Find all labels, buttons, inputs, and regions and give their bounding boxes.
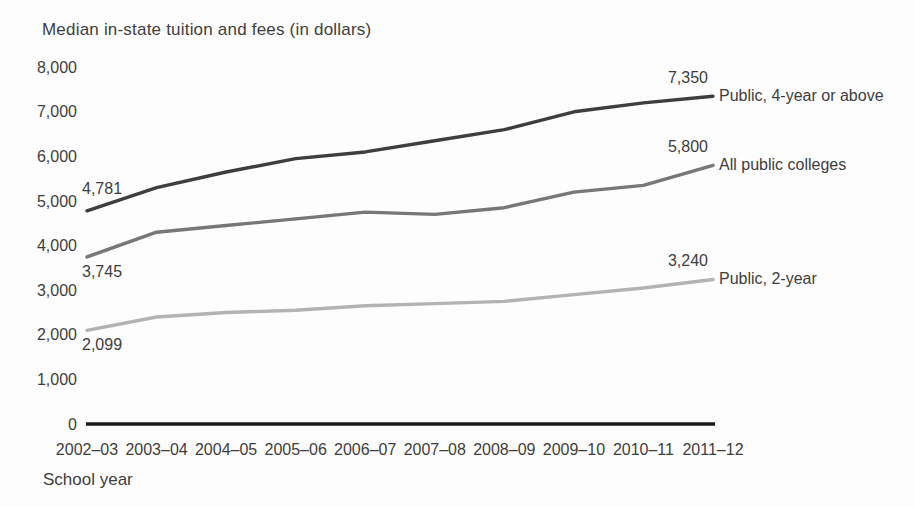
series-name-label: All public colleges <box>719 156 846 173</box>
x-tick-label: 2009–10 <box>543 441 605 458</box>
series-end-value-label: 3,240 <box>668 252 708 269</box>
tuition-line-chart: 01,0002,0003,0004,0005,0006,0007,0008,00… <box>0 0 914 507</box>
series-line-1 <box>87 165 713 257</box>
x-tick-label: 2008–09 <box>473 441 535 458</box>
series-start-value-label: 3,745 <box>82 263 122 280</box>
series-name-label: Public, 4-year or above <box>719 87 884 104</box>
x-axis-title: School year <box>43 470 133 490</box>
y-tick-label: 6,000 <box>37 148 77 165</box>
x-tick-label: 2003–04 <box>125 441 187 458</box>
chart-page: Median in-state tuition and fees (in dol… <box>0 0 914 507</box>
x-tick-label: 2005–06 <box>265 441 327 458</box>
series-name-label: Public, 2-year <box>719 270 817 287</box>
series-end-value-label: 5,800 <box>668 138 708 155</box>
x-tick-label: 2004–05 <box>195 441 257 458</box>
y-tick-label: 1,000 <box>37 371 77 388</box>
x-tick-label: 2010–11 <box>613 441 674 458</box>
series-start-value-label: 4,781 <box>82 180 122 197</box>
y-tick-label: 2,000 <box>37 326 77 343</box>
series-line-2 <box>87 279 713 330</box>
series-start-value-label: 2,099 <box>82 336 122 353</box>
y-tick-label: 0 <box>68 416 77 433</box>
series-end-value-label: 7,350 <box>668 69 708 86</box>
y-tick-label: 8,000 <box>37 59 77 76</box>
y-tick-label: 3,000 <box>37 282 77 299</box>
series-line-0 <box>87 96 713 211</box>
y-tick-label: 4,000 <box>37 237 77 254</box>
x-tick-label: 2002–03 <box>56 441 118 458</box>
x-tick-label: 2007–08 <box>404 441 466 458</box>
y-tick-label: 7,000 <box>37 103 77 120</box>
x-tick-label: 2011–12 <box>682 441 743 458</box>
y-tick-label: 5,000 <box>37 193 77 210</box>
x-tick-label: 2006–07 <box>334 441 396 458</box>
